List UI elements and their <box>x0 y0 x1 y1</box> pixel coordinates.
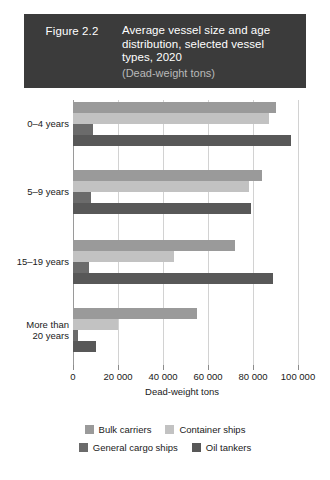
legend-label-container-ships: Container ships <box>179 424 245 435</box>
figure-title: Average vessel size and age distribution… <box>122 24 298 65</box>
plot-area: 0–4 years5–9 years15–19 yearsMore than 2… <box>73 100 298 365</box>
bar <box>73 135 291 146</box>
x-tick <box>298 365 299 370</box>
category-label: 5–9 years <box>3 186 69 198</box>
chart-legend: Bulk carriers Container ships General ca… <box>0 424 330 460</box>
legend-swatch-container-ships <box>165 425 174 434</box>
bar <box>73 124 93 135</box>
bar <box>73 240 235 251</box>
bar <box>73 170 262 181</box>
bar <box>73 330 78 341</box>
figure-header-text: Average vessel size and age distribution… <box>120 14 306 88</box>
bar <box>73 113 269 124</box>
legend-row-1: Bulk carriers Container ships <box>0 424 330 435</box>
bar <box>73 308 197 319</box>
figure-number: Figure 2.2 <box>24 14 120 88</box>
x-tick-label: 80 000 <box>238 371 267 382</box>
category-label: 15–19 years <box>3 256 69 268</box>
x-axis-tick-labels: 020 00040 00060 00080 000100 000 <box>0 371 330 385</box>
x-tick <box>73 365 74 370</box>
legend-label-oil-tankers: Oil tankers <box>206 442 251 453</box>
figure-header-banner: Figure 2.2 Average vessel size and age d… <box>24 14 306 88</box>
x-tick <box>208 365 209 370</box>
bar-group: 5–9 years <box>73 170 298 214</box>
x-tick-label: 20 000 <box>103 371 132 382</box>
legend-item-bulk-carriers: Bulk carriers <box>85 424 152 435</box>
bar <box>73 181 249 192</box>
category-label: More than 20 years <box>3 319 69 342</box>
x-tick <box>163 365 164 370</box>
bar-group: 0–4 years <box>73 102 298 146</box>
bar <box>73 273 273 284</box>
legend-row-2: General cargo ships Oil tankers <box>0 442 330 453</box>
category-label: 0–4 years <box>3 118 69 130</box>
bar <box>73 341 96 352</box>
legend-label-general-cargo-ships: General cargo ships <box>93 442 178 453</box>
bar-group: More than 20 years <box>73 308 298 352</box>
bar <box>73 251 174 262</box>
legend-label-bulk-carriers: Bulk carriers <box>99 424 152 435</box>
x-tick-label: 0 <box>70 371 75 382</box>
x-tick-label: 40 000 <box>148 371 177 382</box>
legend-swatch-oil-tankers <box>192 443 201 452</box>
bar <box>73 102 276 113</box>
bar <box>73 192 91 203</box>
bar <box>73 203 251 214</box>
x-tick <box>118 365 119 370</box>
x-tick-label: 100 000 <box>281 371 315 382</box>
x-tick-label: 60 000 <box>193 371 222 382</box>
legend-item-container-ships: Container ships <box>165 424 245 435</box>
figure-container: Figure 2.2 Average vessel size and age d… <box>0 0 330 480</box>
figure-subtitle: (Dead-weight tons) <box>122 66 298 80</box>
bar-group: 15–19 years <box>73 240 298 284</box>
bar <box>73 262 89 273</box>
legend-swatch-bulk-carriers <box>85 425 94 434</box>
bar <box>73 319 118 330</box>
gridline-100000 <box>298 100 299 365</box>
legend-item-oil-tankers: Oil tankers <box>192 442 251 453</box>
x-tick <box>253 365 254 370</box>
x-axis-title: Dead-weight tons <box>0 386 330 397</box>
x-axis-title-label: Dead-weight tons <box>111 386 219 397</box>
legend-swatch-general-cargo-ships <box>79 443 88 452</box>
legend-item-general-cargo-ships: General cargo ships <box>79 442 178 453</box>
